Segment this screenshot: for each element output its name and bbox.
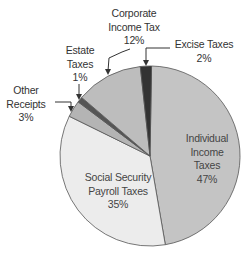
corporate-leader [108, 49, 130, 71]
label-corporate-income-tax: Corporate Income Tax 12% [96, 7, 172, 48]
label-social-security: Social Security Payroll Taxes 35% [68, 171, 168, 212]
label-individual: Individual Income Taxes 47% [168, 132, 246, 186]
excise-leader [146, 48, 170, 62]
label-other-receipts: Other Receipts 3% [0, 84, 52, 125]
label-estate-taxes: Estate Taxes 1% [56, 44, 104, 85]
label-excise-taxes: Excise Taxes 2% [168, 38, 240, 65]
